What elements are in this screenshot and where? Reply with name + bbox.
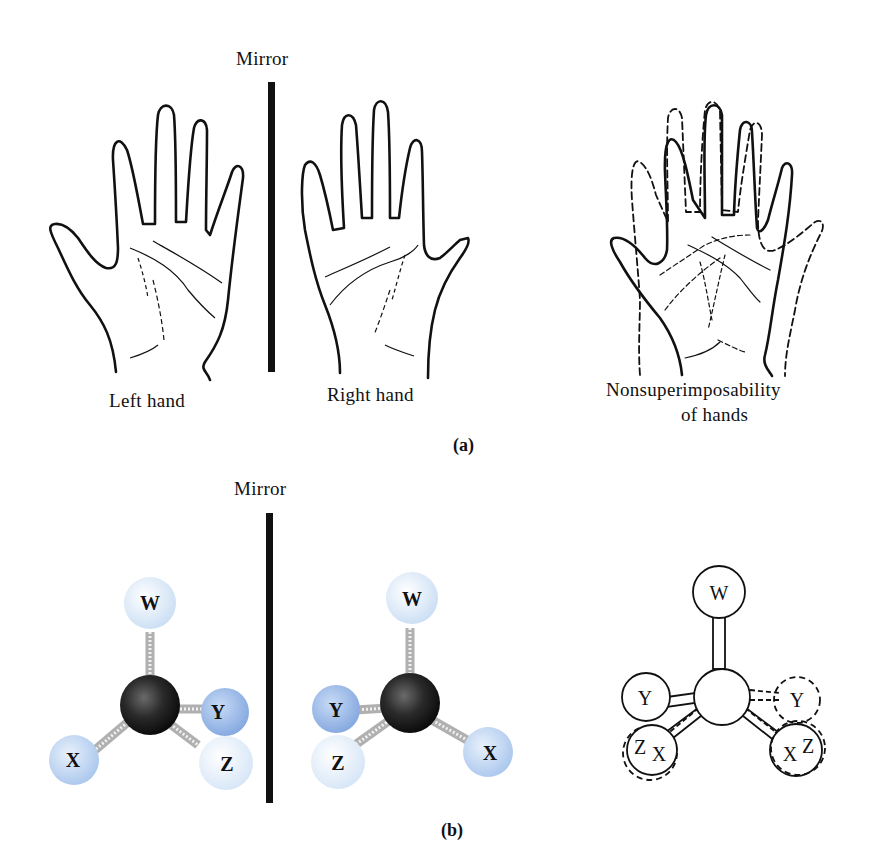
- left-hand-drawing: [50, 106, 243, 380]
- left-molecule: W X Y Z: [49, 577, 253, 790]
- mirror-label-a: Mirror: [236, 48, 288, 70]
- left-hand-creases: [130, 241, 222, 358]
- right-hand-creases: [325, 245, 418, 356]
- atom-label: X: [483, 742, 498, 764]
- center-carbon: [120, 675, 180, 735]
- mirror-label-b: Mirror: [234, 478, 286, 500]
- atom-label: Y: [638, 687, 652, 709]
- atom-label: Z: [220, 753, 233, 775]
- atom-label: W: [140, 592, 160, 614]
- overlay-hands-drawing: [611, 102, 823, 376]
- atom-label: W: [710, 582, 729, 604]
- atom-label: X: [783, 743, 798, 765]
- figure-canvas: W X Y Z W Y Z X: [0, 0, 874, 865]
- atom-label: X: [652, 743, 667, 765]
- atom-label: Z: [331, 752, 344, 774]
- right-hand-drawing: [302, 101, 469, 378]
- atom-label: Y: [211, 701, 226, 723]
- right-hand-label: Right hand: [327, 384, 414, 406]
- atom-label: Y: [790, 689, 804, 711]
- panel-tag-a: (a): [453, 435, 474, 456]
- atom-label: W: [402, 588, 422, 610]
- mirror-line-a: [268, 82, 275, 372]
- of-hands-label: of hands: [681, 404, 748, 426]
- panel-tag-b: (b): [441, 820, 463, 841]
- nonsuperimposability-label: Nonsuperimposability: [606, 379, 781, 401]
- atom-label: Z: [634, 736, 646, 758]
- center-carbon: [380, 673, 440, 733]
- mirror-line-b: [266, 513, 273, 803]
- atom-label: Z: [802, 735, 814, 757]
- left-hand-label: Left hand: [109, 390, 185, 412]
- right-molecule: W Y Z X: [311, 572, 513, 789]
- atom-label: X: [66, 749, 81, 771]
- overlay-center: [694, 669, 750, 725]
- atom-label: Y: [329, 699, 344, 721]
